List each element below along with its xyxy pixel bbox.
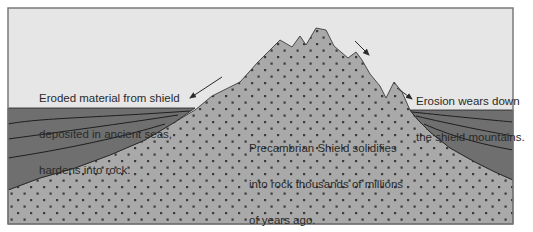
erosion-label: Erosion wears down the shield mountains. — [416, 71, 525, 167]
sediment-label-line-1: Eroded material from shield — [39, 92, 180, 104]
shield-diagram: Eroded material from shield deposited in… — [0, 0, 533, 232]
shield-label-line-2: into rock thousands of millions — [249, 178, 403, 190]
sediment-label-line-2: deposited in ancient seas, — [39, 128, 180, 140]
sediment-label-line-3: hardens into rock. — [39, 164, 180, 176]
erosion-label-line-1: Erosion wears down — [416, 95, 525, 107]
shield-label-line-3: of years ago. — [249, 214, 403, 226]
erosion-label-line-2: the shield mountains. — [416, 131, 525, 143]
sediment-label: Eroded material from shield deposited in… — [39, 68, 180, 200]
shield-label-line-1: Precambrian Shield solidifies — [249, 142, 403, 154]
shield-label: Precambrian Shield solidifies into rock … — [249, 118, 403, 232]
